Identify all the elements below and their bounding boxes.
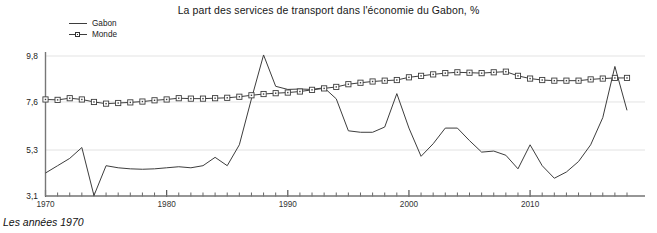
- series-marker-dot: [432, 74, 433, 75]
- series-marker-dot: [420, 75, 421, 76]
- series-marker-dot: [202, 98, 203, 99]
- series-marker-dot: [105, 103, 106, 104]
- chart-figure: La part des services de transport dans l…: [0, 0, 657, 233]
- series-marker-dot: [336, 86, 337, 87]
- series-marker-dot: [69, 98, 70, 99]
- series-marker-dot: [481, 72, 482, 73]
- series-marker-dot: [178, 98, 179, 99]
- series-marker-dot: [239, 96, 240, 97]
- series-marker-dot: [505, 71, 506, 72]
- gridlines: [46, 56, 646, 196]
- data-series-layer: [43, 55, 630, 196]
- series-line-gabon: [46, 55, 628, 196]
- plot-area: 9,87,65,33,1 19701980199020002010: [0, 0, 657, 233]
- series-marker-dot: [251, 95, 252, 96]
- series-marker-dot: [469, 72, 470, 73]
- series-marker-dot: [457, 72, 458, 73]
- y-tick-label: 7,6: [12, 97, 38, 107]
- figure-caption: Les années 1970: [3, 216, 84, 228]
- axis-lines: [46, 52, 646, 196]
- series-marker-dot: [566, 80, 567, 81]
- series-marker-dot: [227, 97, 228, 98]
- series-marker-dot: [590, 79, 591, 80]
- plot-canvas: [0, 0, 657, 233]
- series-marker-dot: [299, 91, 300, 92]
- series-marker-dot: [372, 81, 373, 82]
- series-marker-dot: [287, 92, 288, 93]
- series-marker-dot: [275, 92, 276, 93]
- series-marker-dot: [517, 75, 518, 76]
- y-tick-label: 5,3: [12, 145, 38, 155]
- series-marker-dot: [396, 79, 397, 80]
- series-marker-dot: [348, 84, 349, 85]
- series-marker-dot: [214, 98, 215, 99]
- series-marker-dot: [263, 93, 264, 94]
- series-marker-dot: [384, 80, 385, 81]
- series-marker-dot: [130, 102, 131, 103]
- series-marker-dot: [93, 101, 94, 102]
- x-tick-label: 1980: [147, 200, 187, 209]
- y-tick-label: 9,8: [12, 51, 38, 61]
- x-tick-label: 2010: [510, 200, 550, 209]
- series-marker-dot: [602, 78, 603, 79]
- series-marker-dot: [541, 79, 542, 80]
- series-marker-dot: [154, 100, 155, 101]
- series-marker-dot: [614, 77, 615, 78]
- series-marker-dot: [554, 80, 555, 81]
- series-marker-dot: [311, 89, 312, 90]
- x-tick-label: 1970: [26, 200, 66, 209]
- series-marker-dot: [323, 88, 324, 89]
- series-marker-dot: [408, 77, 409, 78]
- x-tick-label: 2000: [389, 200, 429, 209]
- series-marker-dot: [117, 102, 118, 103]
- x-tick-label: 1990: [268, 200, 308, 209]
- series-marker-dot: [142, 101, 143, 102]
- series-marker-dot: [626, 77, 627, 78]
- series-marker-dot: [529, 78, 530, 79]
- series-marker-dot: [45, 99, 46, 100]
- series-marker-dot: [190, 98, 191, 99]
- series-marker-dot: [81, 99, 82, 100]
- series-marker-dot: [360, 82, 361, 83]
- series-marker-dot: [166, 99, 167, 100]
- series-marker-dot: [57, 99, 58, 100]
- series-marker-dot: [493, 72, 494, 73]
- series-marker-dot: [445, 72, 446, 73]
- series-marker-dot: [578, 80, 579, 81]
